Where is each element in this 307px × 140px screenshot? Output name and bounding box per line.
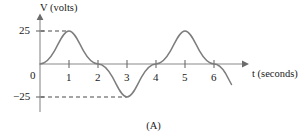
origin-label: 0 (30, 70, 36, 81)
x-axis-group (40, 61, 249, 68)
x-tick-label-4: 4 (153, 72, 159, 83)
x-axis-title: t (seconds) (252, 69, 298, 80)
x-axis-unit: (seconds) (255, 68, 298, 79)
figure-container: V (volts) t (seconds) 25 −25 0 1 2 3 4 5… (0, 0, 307, 140)
y-axis-unit: (volts) (47, 2, 77, 13)
y-tick-label-positive-25: 25 (19, 25, 30, 36)
x-tick-label-1: 1 (66, 72, 72, 83)
x-tick-label-2: 2 (95, 72, 101, 83)
x-tick-label-5: 5 (182, 72, 188, 83)
x-tick-label-6: 6 (211, 72, 217, 83)
y-axis-title: V (volts) (40, 3, 77, 14)
y-tick-label-negative-25: −25 (13, 91, 30, 102)
x-tick-label-3: 3 (124, 72, 130, 83)
x-axis-arrowhead (242, 61, 249, 68)
figure-caption: (A) (0, 120, 307, 131)
y-axis-arrowhead (37, 14, 44, 21)
